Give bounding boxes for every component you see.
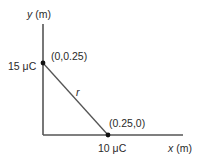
charge-right-coord: (0.25,0) (109, 117, 145, 129)
charge-right-value: 10 μC (98, 142, 127, 154)
x-axis-label: x (m) (167, 142, 192, 154)
separation-line-r (43, 63, 108, 135)
y-axis-label: y (m) (26, 8, 51, 20)
separation-label: r (76, 86, 80, 98)
charge-top-value: 15 μC (8, 60, 37, 72)
charge-right-dot (106, 133, 111, 138)
charge-diagram: y (m) x (m) 15 μC (0,0.25) r (0.25,0) 10… (0, 0, 206, 161)
charge-top-coord: (0,0.25) (51, 50, 87, 62)
x-axis-unit: (m) (173, 142, 192, 154)
charge-top-dot (41, 61, 46, 66)
y-axis-unit: (m) (32, 8, 51, 20)
